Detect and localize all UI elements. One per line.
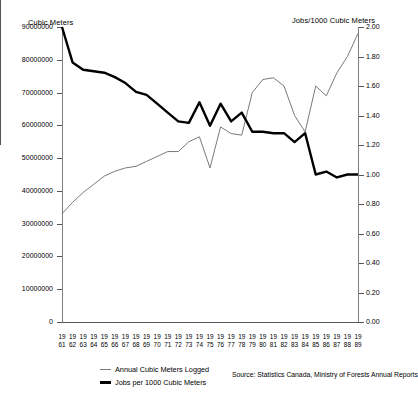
legend-swatch-thick [100, 381, 111, 383]
line-jobs-per-1000-cubic-meters [62, 27, 358, 177]
legend-item: Annual Cubic Meters Logged [100, 363, 209, 376]
chart-legend: Annual Cubic Meters LoggedJobs per 1000 … [100, 363, 209, 389]
legend-item: Jobs per 1000 Cubic Meters [100, 376, 209, 389]
legend-swatch-thin [100, 369, 111, 370]
legend-label: Jobs per 1000 Cubic Meters [115, 376, 206, 389]
source-note: Source: Statistics Canada, Ministry of F… [232, 371, 418, 378]
legend-label: Annual Cubic Meters Logged [115, 363, 209, 376]
